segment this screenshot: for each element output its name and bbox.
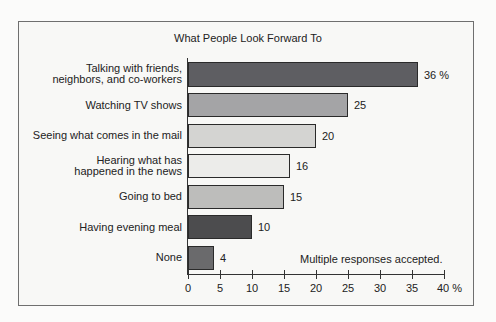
category-label: Going to bed <box>119 191 182 202</box>
bar <box>188 154 290 178</box>
bar <box>188 215 252 239</box>
category-label: Watching TV shows <box>85 100 182 111</box>
bar <box>188 93 348 117</box>
x-axis-tick-label: 30 <box>374 282 386 294</box>
category-label: None <box>156 252 182 263</box>
category-label: Talking with friends, neighbors, and co-… <box>52 63 182 85</box>
category-label-line: happened in the news <box>74 166 182 177</box>
x-axis-tick-label: 40 % <box>437 282 462 294</box>
bar-value-label: 10 <box>258 222 270 233</box>
x-axis-tick <box>316 270 317 279</box>
bar-value-label: 4 <box>220 253 226 264</box>
x-axis-tick-label: 15 <box>278 282 290 294</box>
bar-value-label: 16 <box>296 161 308 172</box>
x-axis-tick-label: 25 <box>342 282 354 294</box>
category-label-line: neighbors, and co-workers <box>52 74 182 85</box>
bar-value-label: 36 % <box>424 70 449 81</box>
bar <box>188 185 284 209</box>
x-axis-tick-label: 10 <box>246 282 258 294</box>
x-axis-tick <box>220 270 221 279</box>
category-label: Having evening meal <box>79 222 182 233</box>
bar <box>188 62 418 87</box>
bar <box>188 246 214 270</box>
x-axis-tick-label: 35 <box>406 282 418 294</box>
chart-annotation: Multiple responses accepted. <box>300 253 442 265</box>
x-axis-tick <box>412 270 413 279</box>
y-axis-line <box>187 58 188 275</box>
x-axis-tick-label: 5 <box>217 282 223 294</box>
category-label: Hearing what has happened in the news <box>74 155 182 177</box>
bar-value-label: 25 <box>354 100 366 111</box>
bar <box>188 124 316 148</box>
x-axis-tick <box>380 270 381 279</box>
bar-value-label: 15 <box>290 192 302 203</box>
x-axis-tick <box>188 270 189 279</box>
category-label: Seeing what comes in the mail <box>33 130 182 141</box>
chart-title: What People Look Forward To <box>0 32 496 44</box>
x-axis-tick <box>444 270 445 279</box>
x-axis-tick-label: 20 <box>310 282 322 294</box>
bar-value-label: 20 <box>322 131 334 142</box>
x-axis-tick <box>284 270 285 279</box>
x-axis-tick <box>252 270 253 279</box>
x-axis-tick-label: 0 <box>185 282 191 294</box>
x-axis-tick <box>348 270 349 279</box>
